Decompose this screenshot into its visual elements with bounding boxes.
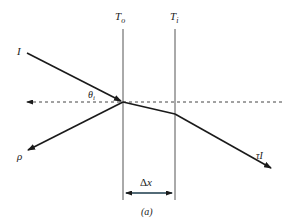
incident-ray	[27, 53, 121, 101]
refracted-ray	[123, 102, 175, 114]
reflected-label: ρ	[16, 150, 22, 162]
transmitted-label: τI	[256, 150, 264, 161]
angle-label-sub: i	[93, 94, 95, 102]
inner-boundary-label: Ti	[170, 10, 178, 25]
outer-boundary-label: To	[115, 10, 125, 25]
figure-caption: (a)	[141, 206, 153, 218]
incident-label: I	[16, 45, 22, 57]
angle-label: θi	[88, 89, 95, 102]
thickness-label-x: x	[146, 176, 152, 188]
ray-diagram: To Ti I θi ρ τI Δx (a)	[0, 0, 291, 223]
thickness-label: Δx	[140, 176, 152, 188]
inner-boundary-label-sub: i	[176, 16, 178, 25]
diagram-canvas: To Ti I θi ρ τI Δx (a)	[0, 0, 291, 223]
reflected-ray	[28, 102, 123, 150]
thickness-label-delta: Δ	[140, 176, 147, 188]
outer-boundary-label-sub: o	[121, 16, 125, 25]
